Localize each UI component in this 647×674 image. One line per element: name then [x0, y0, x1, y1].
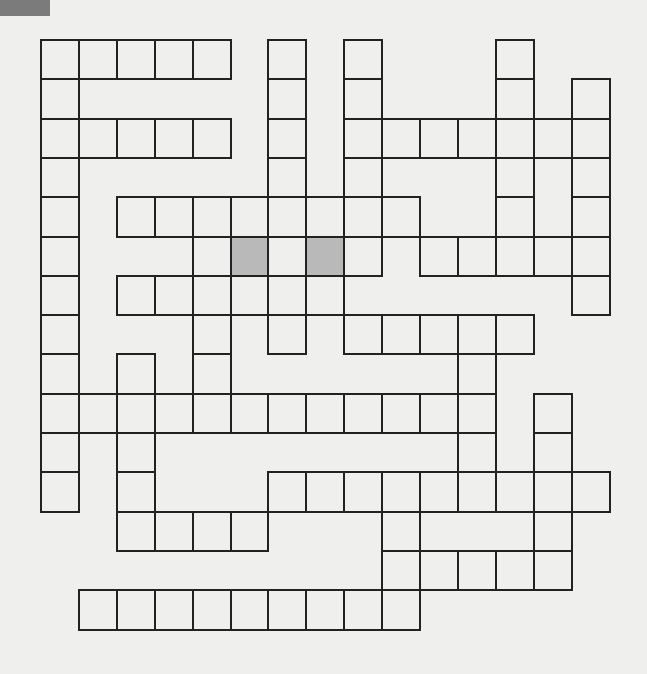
grid-cell[interactable]: [571, 275, 611, 316]
grid-cell[interactable]: [40, 393, 80, 434]
grid-cell[interactable]: [154, 393, 194, 434]
grid-cell[interactable]: [267, 196, 307, 238]
grid-cell[interactable]: [192, 236, 232, 277]
grid-cell[interactable]: [571, 196, 611, 238]
grid-cell[interactable]: [154, 39, 194, 80]
grid-cell[interactable]: [267, 39, 307, 80]
grid-cell[interactable]: [116, 353, 156, 395]
grid-cell[interactable]: [419, 471, 459, 513]
grid-cell[interactable]: [343, 314, 383, 355]
grid-cell[interactable]: [230, 275, 269, 316]
grid-cell[interactable]: [571, 118, 611, 159]
grid-cell[interactable]: [192, 511, 232, 552]
grid-cell[interactable]: [40, 236, 80, 277]
grid-cell[interactable]: [267, 471, 307, 513]
grid-cell[interactable]: [154, 511, 194, 552]
shaded-cell[interactable]: [230, 236, 269, 277]
grid-cell[interactable]: [305, 393, 345, 434]
grid-cell[interactable]: [230, 393, 269, 434]
grid-cell[interactable]: [457, 118, 497, 159]
grid-cell[interactable]: [495, 196, 535, 238]
grid-cell[interactable]: [495, 78, 535, 120]
grid-cell[interactable]: [267, 236, 307, 277]
grid-cell[interactable]: [343, 196, 383, 238]
grid-cell[interactable]: [343, 78, 383, 120]
grid-cell[interactable]: [154, 118, 194, 159]
grid-cell[interactable]: [533, 393, 573, 434]
grid-cell[interactable]: [40, 275, 80, 316]
grid-cell[interactable]: [116, 432, 156, 473]
grid-cell[interactable]: [154, 275, 194, 316]
grid-cell[interactable]: [571, 78, 611, 120]
grid-cell[interactable]: [154, 589, 194, 631]
grid-cell[interactable]: [305, 275, 345, 316]
grid-cell[interactable]: [343, 118, 383, 159]
grid-cell[interactable]: [78, 393, 118, 434]
grid-cell[interactable]: [192, 39, 232, 80]
grid-cell[interactable]: [40, 157, 80, 198]
grid-cell[interactable]: [533, 511, 573, 552]
grid-cell[interactable]: [40, 39, 80, 80]
grid-cell[interactable]: [40, 471, 80, 513]
grid-cell[interactable]: [267, 314, 307, 355]
grid-cell[interactable]: [116, 196, 156, 238]
grid-cell[interactable]: [305, 589, 345, 631]
grid-cell[interactable]: [381, 550, 421, 591]
grid-cell[interactable]: [495, 157, 535, 198]
grid-cell[interactable]: [457, 393, 497, 434]
grid-cell[interactable]: [267, 118, 307, 159]
grid-cell[interactable]: [381, 471, 421, 513]
grid-cell[interactable]: [40, 353, 80, 395]
grid-cell[interactable]: [305, 196, 345, 238]
grid-cell[interactable]: [381, 511, 421, 552]
grid-cell[interactable]: [192, 393, 232, 434]
grid-cell[interactable]: [192, 589, 232, 631]
grid-cell[interactable]: [267, 589, 307, 631]
grid-cell[interactable]: [419, 118, 459, 159]
grid-cell[interactable]: [457, 353, 497, 395]
grid-cell[interactable]: [40, 314, 80, 355]
grid-cell[interactable]: [40, 78, 80, 120]
grid-cell[interactable]: [116, 118, 156, 159]
shaded-cell[interactable]: [305, 236, 345, 277]
grid-cell[interactable]: [78, 589, 118, 631]
grid-cell[interactable]: [267, 157, 307, 198]
grid-cell[interactable]: [457, 314, 497, 355]
grid-cell[interactable]: [192, 314, 232, 355]
grid-cell[interactable]: [533, 471, 573, 513]
grid-cell[interactable]: [78, 39, 118, 80]
grid-cell[interactable]: [192, 353, 232, 395]
grid-cell[interactable]: [343, 39, 383, 80]
grid-cell[interactable]: [230, 196, 269, 238]
grid-cell[interactable]: [457, 550, 497, 591]
grid-cell[interactable]: [495, 314, 535, 355]
grid-cell[interactable]: [343, 393, 383, 434]
grid-cell[interactable]: [192, 196, 232, 238]
grid-cell[interactable]: [533, 236, 573, 277]
grid-cell[interactable]: [116, 589, 156, 631]
grid-cell[interactable]: [533, 432, 573, 473]
grid-cell[interactable]: [230, 511, 269, 552]
grid-cell[interactable]: [343, 589, 383, 631]
grid-cell[interactable]: [419, 393, 459, 434]
grid-cell[interactable]: [267, 275, 307, 316]
grid-cell[interactable]: [40, 118, 80, 159]
grid-cell[interactable]: [40, 432, 80, 473]
grid-cell[interactable]: [419, 236, 459, 277]
grid-cell[interactable]: [343, 157, 383, 198]
grid-cell[interactable]: [343, 236, 383, 277]
grid-cell[interactable]: [533, 118, 573, 159]
grid-cell[interactable]: [116, 275, 156, 316]
grid-cell[interactable]: [343, 471, 383, 513]
grid-cell[interactable]: [533, 550, 573, 591]
grid-cell[interactable]: [457, 432, 497, 473]
grid-cell[interactable]: [78, 118, 118, 159]
grid-cell[interactable]: [419, 314, 459, 355]
grid-cell[interactable]: [419, 550, 459, 591]
grid-cell[interactable]: [267, 78, 307, 120]
grid-cell[interactable]: [495, 118, 535, 159]
grid-cell[interactable]: [305, 471, 345, 513]
grid-cell[interactable]: [116, 39, 156, 80]
grid-cell[interactable]: [154, 196, 194, 238]
grid-cell[interactable]: [267, 393, 307, 434]
